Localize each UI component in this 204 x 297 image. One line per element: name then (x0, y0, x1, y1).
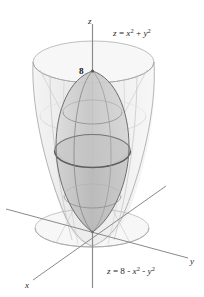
axis-label-x: x (24, 280, 29, 290)
label-upper-exp2: 2 (148, 27, 151, 34)
label-lower-minus1: - (125, 266, 133, 276)
paraboloid-figure-svg: z = x2 + y2 z = 8 - x2 - y2 z y x 8 (0, 0, 204, 297)
label-lower-exp2: 2 (152, 265, 155, 272)
apex-point-z8 (91, 70, 94, 73)
axis-label-y: y (189, 256, 194, 266)
label-upper-surface-equation: z = x2 + y2 (112, 27, 151, 38)
figure-container: z = x2 + y2 z = 8 - x2 - y2 z y x 8 (0, 0, 204, 297)
vertex-point-origin (91, 231, 94, 234)
z-intercept-label-8: 8 (79, 66, 84, 76)
label-lower-eq: = (111, 266, 121, 276)
label-upper-eq: = (117, 28, 127, 38)
label-lower-minus2: - (140, 266, 148, 276)
label-upper-plus: + (134, 28, 144, 38)
label-lower-surface-equation: z = 8 - x2 - y2 (106, 265, 155, 276)
axis-label-z: z (87, 16, 92, 26)
